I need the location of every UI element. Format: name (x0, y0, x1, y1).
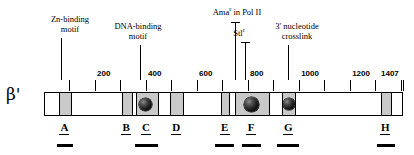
conserved-region-letter-rule (171, 134, 181, 135)
conserved-region-letter-rule (121, 134, 131, 135)
axis-tick (324, 80, 325, 91)
conserved-region-letter-rule (220, 134, 230, 135)
conserved-region-letter-rule (283, 134, 293, 135)
axis-tick (171, 80, 172, 91)
axis-tick-label: 1000 (301, 70, 319, 78)
conserved-region-underbar-H (377, 144, 395, 147)
axis-tick-label: 1407 (381, 70, 399, 78)
conserved-region-letter-E: E (217, 122, 233, 133)
domain-block (170, 93, 184, 115)
axis-tick (248, 80, 249, 91)
active-site-sphere (244, 97, 259, 112)
conserved-region-underbar-G (277, 144, 299, 147)
axis-tick-label: 200 (97, 70, 110, 78)
axis-tick (197, 80, 198, 91)
active-site-sphere (139, 98, 152, 111)
domain-block (122, 93, 133, 115)
conserved-region-letter-rule (59, 134, 69, 135)
conserved-region-letter-rule (380, 134, 390, 135)
axis-tick-label: 600 (199, 70, 212, 78)
conserved-region-underbar-C (135, 144, 157, 147)
conserved-region-underbar-A (57, 144, 74, 147)
axis-tick (69, 80, 70, 91)
conserved-region-letter-D: D (168, 122, 184, 133)
conserved-region-letter-rule (246, 134, 256, 135)
conserved-region-underbar-F (242, 144, 261, 147)
axis-tick (95, 80, 96, 91)
conserved-region-letter-rule (141, 134, 151, 135)
axis-tick-label: 800 (250, 70, 263, 78)
axis-tick (299, 80, 300, 91)
axis-tick (375, 80, 376, 91)
domain-block (59, 93, 72, 115)
beta-prime-domain-map-figure: β' Zn-bindingmotifDNA-bindingmotifAmar i… (0, 0, 414, 155)
axis-tick (120, 80, 121, 91)
conserved-region-letter-G: G (280, 122, 296, 133)
protein-bar (44, 92, 403, 116)
domain-block (381, 93, 392, 115)
axis-tick (403, 80, 404, 91)
conserved-region-letter-F: F (243, 122, 259, 133)
axis-tick (222, 80, 223, 91)
conserved-region-letter-B: B (118, 122, 134, 133)
axis-tick (350, 80, 351, 91)
conserved-region-letter-A: A (56, 122, 72, 133)
axis-tick-label: 1200 (352, 70, 370, 78)
axis-tick (146, 80, 147, 91)
axis-tick-label: 400 (148, 70, 161, 78)
axis-tick (273, 80, 274, 91)
domain-block (221, 93, 230, 115)
conserved-region-letter-C: C (138, 122, 154, 133)
conserved-region-underbar-E (215, 144, 234, 147)
conserved-region-letter-H: H (377, 122, 393, 133)
